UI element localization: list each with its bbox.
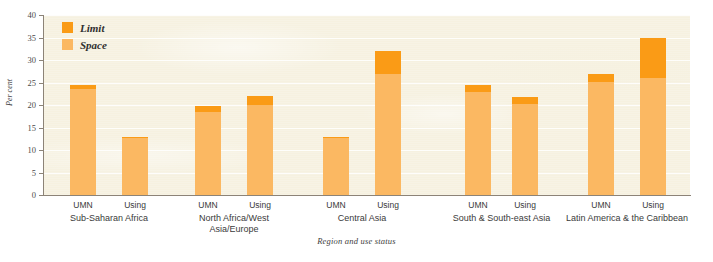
status-label: Using [235, 200, 285, 210]
status-label: Using [110, 200, 160, 210]
status-label: Using [628, 200, 678, 210]
status-label: Using [500, 200, 550, 210]
status-label: Using [363, 200, 413, 210]
status-label: UMN [58, 200, 108, 210]
status-label: UMN [311, 200, 361, 210]
status-label: UMN [453, 200, 503, 210]
chart-figure: 0510152025303540 Per cent Region and use… [0, 0, 713, 262]
status-label: UMN [183, 200, 233, 210]
group-label: Latin America & the Caribbean [552, 213, 702, 224]
status-label: UMN [576, 200, 626, 210]
group-label: Central Asia [287, 213, 437, 224]
category-labels: UMNUsingUMNUsingUMNUsingUMNUsingUMNUsing… [0, 0, 713, 262]
